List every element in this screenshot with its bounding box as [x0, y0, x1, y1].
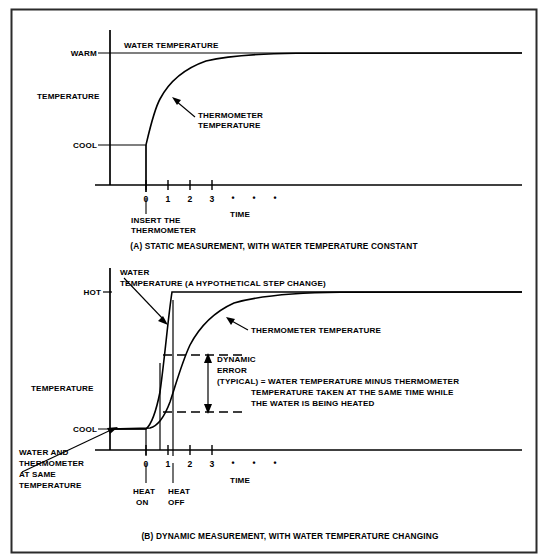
panel-b-heat-on-label-line2: ON	[136, 498, 148, 507]
panel-a-xtick-dot-3: •	[273, 193, 276, 203]
panel-b-origin-note-line1: WATER AND	[19, 448, 68, 457]
panel-b-error-label-line4: TEMPERATURE TAKEN AT THE SAME TIME WHILE	[251, 388, 454, 397]
panel-a-xtick-dot-2: •	[252, 193, 255, 203]
panel-b-y-axis-label: TEMPERATURE	[31, 384, 94, 393]
panel-a-xtick-label-2: 2	[188, 194, 193, 204]
panel-b-caption: (B) DYNAMIC MEASUREMENT, WITH WATER TEMP…	[141, 531, 438, 541]
panel-a-curve-label-line1: THERMOMETER	[198, 111, 263, 120]
panel-a-event-label-line1: INSERT THE	[131, 216, 181, 225]
panel-b-heat-off-label-line1: HEAT	[168, 487, 190, 496]
panel-a-curve-leader	[176, 101, 195, 117]
panel-b-curve-label: THERMOMETER TEMPERATURE	[251, 326, 382, 335]
panel-b-origin-note-line4: TEMPERATURE	[19, 481, 82, 490]
panel-b-xtick-dot-2: •	[252, 458, 255, 468]
panel-a-xtick-label-0: 0	[144, 194, 149, 204]
panel-b-ytick-label-cool: COOL	[73, 425, 97, 434]
panel-b-xtick-label-1: 1	[166, 459, 171, 469]
panel-b-error-label-line3: (TYPICAL) = WATER TEMPERATURE MINUS THER…	[217, 377, 459, 386]
panel-b-error-label-line1: DYNAMIC	[217, 355, 256, 364]
panel-b-xtick-dot-3: •	[273, 458, 276, 468]
panel-b-thermometer-curve	[110, 292, 522, 429]
panel-a: 0 1 2 3 • • • WARM COOL TEMPERATURE TIME…	[37, 30, 522, 251]
panel-b-origin-note-line2: THERMOMETER	[19, 459, 84, 468]
figure-root: 0 1 2 3 • • • WARM COOL TEMPERATURE TIME…	[0, 0, 547, 560]
panel-b-x-axis-label: TIME	[230, 476, 250, 485]
panel-a-thermometer-curve	[146, 53, 522, 145]
technical-diagram: 0 1 2 3 • • • WARM COOL TEMPERATURE TIME…	[0, 0, 547, 560]
panel-a-caption: (A) STATIC MEASUREMENT, WITH WATER TEMPE…	[130, 241, 417, 251]
panel-b-origin-note-arrowhead	[107, 427, 118, 434]
panel-b-xtick-label-3: 3	[210, 459, 215, 469]
panel-a-xtick-dot-1: •	[231, 193, 234, 203]
panel-a-water-temperature-label: WATER TEMPERATURE	[124, 41, 219, 50]
panel-b-water-label-arrowhead	[158, 316, 168, 325]
panel-a-event-label-line2: THERMOMETER	[131, 226, 196, 235]
panel-a-xtick-label-1: 1	[166, 194, 171, 204]
panel-a-y-axis-label: TEMPERATURE	[37, 92, 100, 101]
panel-b-error-label-line2: ERROR	[217, 366, 247, 375]
panel-b-error-label-line5: THE WATER IS BEING HEATED	[251, 399, 375, 408]
panel-a-ytick-label-cool: COOL	[73, 141, 97, 150]
panel-a-x-axis-label: TIME	[230, 210, 250, 219]
panel-a-curve-label-line2: TEMPERATURE	[198, 121, 261, 130]
panel-b-water-temperature-curve	[110, 292, 522, 429]
panel-b-ytick-label-hot: HOT	[83, 288, 101, 297]
panel-b-xtick-label-2: 2	[188, 459, 193, 469]
panel-b-xtick-dot-1: •	[231, 458, 234, 468]
panel-b-curve-arrowhead	[226, 317, 235, 325]
panel-b: 0 1 2 3 • • • HOT COOL TEMPERATURE TIME …	[19, 268, 522, 541]
panel-b-origin-note-line3: AT SAME	[19, 470, 56, 479]
panel-b-xtick-label-0: 0	[144, 459, 149, 469]
panel-b-water-label-line1: WATER	[120, 268, 149, 277]
panel-b-water-label-line2: TEMPERATURE (A HYPOTHETICAL STEP CHANGE)	[120, 279, 326, 288]
panel-a-xtick-label-3: 3	[210, 194, 215, 204]
panel-b-heat-off-label-line2: OFF	[168, 498, 185, 507]
panel-a-ytick-label-warm: WARM	[71, 49, 97, 58]
panel-b-heat-on-label-line1: HEAT	[133, 487, 155, 496]
